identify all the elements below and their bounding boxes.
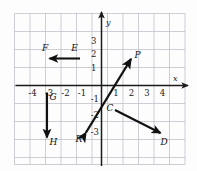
point-label-D: D: [159, 137, 167, 147]
x-tick--1: -1: [78, 88, 86, 98]
y-tick--1: -1: [91, 94, 99, 104]
point-label-H: H: [49, 137, 58, 147]
point-label-G: G: [49, 92, 56, 102]
x-tick--4: -4: [28, 88, 36, 98]
y-tick--3: -3: [91, 127, 99, 137]
x-tick-3: 3: [144, 88, 149, 98]
point-label-F: F: [41, 43, 49, 53]
point-label-P: P: [133, 50, 141, 60]
y-tick-1: 1: [91, 63, 96, 73]
y-axis-label: y: [105, 18, 111, 27]
x-tick-4: 4: [160, 88, 165, 98]
x-tick-2: 2: [129, 88, 134, 98]
x-axis-label: x: [173, 74, 178, 83]
x-tick--2: -2: [61, 88, 69, 98]
x-tick-1: 1: [113, 88, 118, 98]
y-tick-3: 3: [91, 36, 96, 46]
point-label-E: E: [70, 43, 78, 53]
coordinate-plane-svg: x y -4 -3 -2 -1 1 2 3 4 3 2 1 -1 -2 -3 E…: [0, 0, 197, 171]
y-tick-2: 2: [91, 49, 96, 59]
coordinate-plane-figure: x y -4 -3 -2 -1 1 2 3 4 3 2 1 -1 -2 -3 E…: [0, 0, 197, 171]
point-label-R: R: [75, 134, 83, 144]
point-label-C: C: [107, 103, 114, 113]
